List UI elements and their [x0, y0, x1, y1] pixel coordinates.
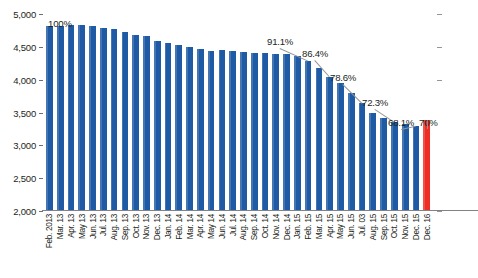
bar [219, 50, 226, 209]
bar-slot [314, 13, 325, 210]
bar [380, 118, 387, 210]
x-axis-label-slot: Aug. 13 [109, 213, 120, 275]
y-axis-tick [39, 113, 43, 114]
x-axis-tick-label: Jul. 14 [228, 214, 237, 236]
bar-slot [206, 13, 217, 210]
plot-area [44, 14, 432, 211]
x-axis-tick-label: Oct. 15 [390, 214, 399, 238]
bar [294, 56, 301, 210]
bar-slot [227, 13, 238, 210]
y-axis-tick-label: 2,000 [0, 206, 36, 217]
x-axis-tick-label: Jun. 13 [88, 214, 97, 239]
bar [143, 36, 150, 209]
x-axis-tick-label: Sep. 14 [250, 214, 259, 240]
bar-slot [357, 13, 368, 210]
bar-slot [303, 13, 314, 210]
bar [305, 61, 312, 209]
y-axis-tick [39, 14, 43, 15]
right-axis-tick [437, 80, 442, 81]
x-axis-label-slot: Jul. 13 [98, 213, 109, 275]
y-axis-tick-label: 4,000 [0, 74, 36, 85]
bar-slot [400, 13, 411, 210]
x-axis-tick-label: Mar. 14 [185, 214, 194, 239]
bar [78, 25, 85, 209]
bar-slot [249, 13, 260, 210]
x-axis-label-slot: Aug. 15 [367, 213, 378, 275]
bar-slot [238, 13, 249, 210]
x-axis-label-slot: Mar. 15 [314, 213, 325, 275]
x-axis-label-slot: Feb. 2013 [44, 213, 55, 275]
bar-slot [411, 13, 422, 210]
bar [240, 52, 247, 210]
y-axis-tick-label: 5,000 [0, 9, 36, 20]
x-axis-label-slot: Sep. 14 [249, 213, 260, 275]
x-axis-label-slot: Mar. 13 [55, 213, 66, 275]
right-axis-tick [437, 14, 442, 15]
y-axis-tick-label: 3,000 [0, 140, 36, 151]
x-axis-tick-label: Jun. 15 [347, 214, 356, 239]
bar [283, 54, 290, 210]
y-axis-tick-label: 2,500 [0, 173, 36, 184]
x-axis-label-slot: Apr. 15 [324, 213, 335, 275]
x-axis-tick-label: Dec. 13 [153, 214, 162, 240]
right-axis-tick [437, 47, 442, 48]
x-axis-tick-label: Jan. 14 [163, 214, 172, 239]
x-axis-label-slot: May 13 [76, 213, 87, 275]
x-axis-label-slot: Apr. 13 [66, 213, 77, 275]
x-axis-tick-label: Aug. 14 [239, 214, 248, 240]
x-axis-tick-label: Feb. 15 [304, 214, 313, 240]
y-axis-tick-label: 3,500 [0, 107, 36, 118]
x-axis-tick-label: Apr. 13 [66, 214, 75, 238]
x-axis-tick-label: Apr. 15 [325, 214, 334, 238]
x-axis-label-slot: Nov. 14 [270, 213, 281, 275]
x-axis-baseline [42, 210, 478, 212]
x-axis-tick-label: Feb. 14 [174, 214, 183, 240]
x-axis-tick-label: Aug. 15 [368, 214, 377, 240]
bar [132, 35, 139, 210]
x-axis-tick-label: Sep. 13 [120, 214, 129, 240]
x-axis-tick-label: Jun. 14 [217, 214, 226, 239]
bar [175, 45, 182, 209]
bar [89, 26, 96, 210]
x-axis-tick-label: May 14 [207, 214, 216, 239]
y-axis-tick [39, 211, 43, 212]
x-axis-tick-label: Apr. 14 [196, 214, 205, 238]
data-label: 72.3% [362, 97, 388, 108]
x-axis-label-slot: Apr. 14 [195, 213, 206, 275]
y-axis-tick [39, 47, 43, 48]
x-axis-label-slot: May 15 [335, 213, 346, 275]
x-axis-label-slot: Jan. 14 [163, 213, 174, 275]
x-axis-tick-label: May 15 [336, 214, 345, 239]
bar [402, 124, 409, 209]
x-axis-tick-label: Jan. 15 [293, 214, 302, 239]
bar-slot [87, 13, 98, 210]
bar [359, 103, 366, 209]
x-axis-tick-label: Nov. 13 [142, 214, 151, 240]
bar [251, 53, 258, 210]
x-axis-label-slot: Feb. 14 [173, 213, 184, 275]
bar-slot [184, 13, 195, 210]
bar-slot [55, 13, 66, 210]
bar [122, 32, 129, 209]
x-axis-label-slot: Aug. 14 [238, 213, 249, 275]
bar-series [44, 13, 432, 210]
bar [154, 41, 161, 210]
bar [326, 77, 333, 210]
bar [229, 51, 236, 209]
x-axis-tick-label: Oct. 14 [261, 214, 270, 238]
x-axis-tick-label: Feb. 2013 [45, 214, 54, 248]
x-axis-tick-label: Mar. 15 [314, 214, 323, 239]
x-axis-tick-label: Jul. 13 [99, 214, 108, 236]
x-axis-tick-label: Dec. 15 [411, 214, 420, 240]
bar [413, 126, 420, 209]
bar [208, 51, 215, 210]
bar-slot [378, 13, 389, 210]
data-label: 91.1% [267, 36, 293, 47]
right-axis-tick [437, 211, 442, 212]
x-axis-label-slot: Jun. 15 [346, 213, 357, 275]
bar-slot [119, 13, 130, 210]
bar-slot [421, 13, 432, 210]
x-axis-label-slot: Sep. 13 [119, 213, 130, 275]
y-axis-tick [39, 178, 43, 179]
